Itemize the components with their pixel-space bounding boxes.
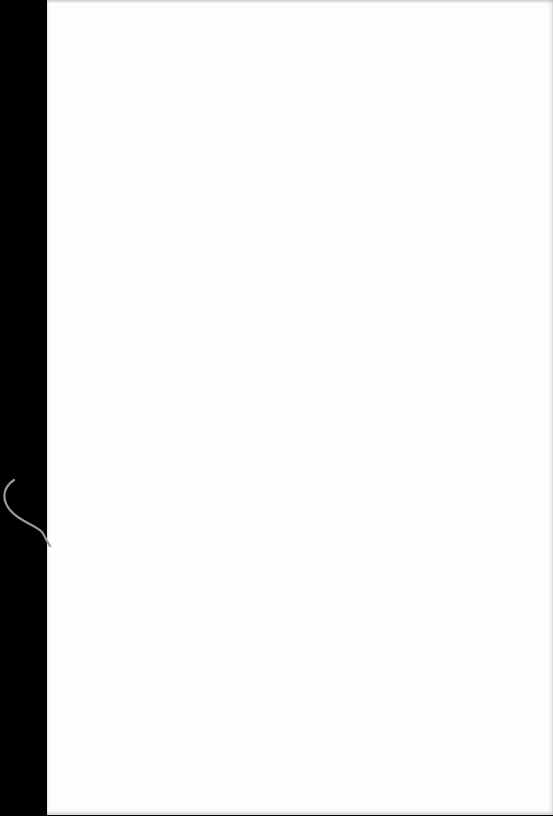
scan-border xyxy=(0,0,48,816)
hair-artifact-icon xyxy=(0,470,60,570)
blank-page xyxy=(47,0,553,815)
page-content xyxy=(47,0,553,815)
